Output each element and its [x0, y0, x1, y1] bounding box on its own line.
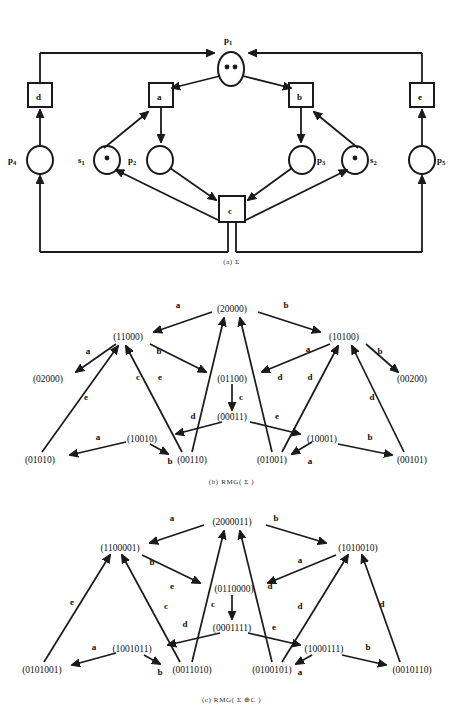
edge-label-ca2: a	[298, 555, 303, 565]
edge-20000-10100	[258, 312, 320, 332]
edge-10100-01100	[262, 344, 330, 372]
edge-1000111-0100101	[296, 655, 312, 664]
place-p2-label: p2	[128, 155, 136, 166]
transition-b-label: b	[297, 92, 302, 102]
caption-panel-b: (b) RMG( Σ )	[0, 478, 463, 486]
edge-0011010-2000011	[192, 531, 224, 662]
node-02000: (02000)	[33, 374, 63, 385]
edge-label-c1: c	[239, 392, 243, 402]
edge-label-b5: b	[367, 432, 372, 442]
node-01010: (01010)	[25, 455, 55, 466]
place-p5-label: p5	[437, 155, 446, 166]
node-00200: (00200)	[397, 374, 427, 385]
edge-0001111-1001011	[168, 633, 220, 645]
edge-label-e1: e	[275, 411, 279, 421]
edge-10010-01010	[70, 442, 126, 455]
edge-label-d2: d	[277, 372, 282, 382]
edge-1001011-0101001	[72, 653, 116, 665]
edge-01001-20000	[240, 318, 272, 452]
node-1100001: (1100001)	[100, 543, 139, 554]
place-s1: s1	[78, 146, 120, 174]
caption-panel-c: (c) RMG( Σ ⊕C )	[0, 696, 463, 704]
place-s2: s2	[342, 146, 377, 174]
edge-label-ce3: e	[170, 581, 174, 591]
node-2000011: (2000011)	[212, 517, 251, 528]
place-p3-label: p3	[317, 155, 326, 166]
edge-01010-11000	[42, 346, 118, 452]
rmg-sigma-svg: (20000) (11000) (10100) (02000) (01100) …	[0, 292, 463, 474]
node-00101: (00101)	[397, 455, 427, 466]
edge-2000011-1100001	[150, 525, 204, 543]
edge-label-a5: a	[308, 456, 313, 466]
place-p5: p5	[409, 146, 446, 174]
node-0110000: (0110000)	[214, 584, 253, 595]
edge-0101001-1100001	[44, 555, 110, 662]
rmg-sigma-c-svg: (2000011) (1100001) (1010010) (0110000) …	[0, 505, 463, 685]
node-1010010: (1010010)	[338, 543, 378, 554]
edge-0001111-1000111	[248, 633, 300, 645]
transition-c: c	[219, 196, 245, 222]
petri-net-svg: p1 a b c d e p2 p3 p4 p5 s1	[0, 24, 463, 254]
edge-label-ca1: a	[170, 513, 175, 523]
edge-label-b2: b	[156, 346, 161, 356]
transition-e-label: e	[418, 92, 422, 102]
edge-label-ca3: a	[92, 642, 97, 652]
edge-label-e3: e	[158, 372, 162, 382]
place-p1: p1	[218, 35, 244, 86]
edge-10001-00101	[338, 444, 392, 455]
edge-label-cd1: d	[182, 619, 187, 629]
edge-label-a1: a	[176, 300, 181, 310]
edge-10010-00110	[150, 444, 168, 454]
edge-label-cd3: d	[379, 599, 384, 609]
transition-d-label: d	[36, 92, 41, 102]
edge-label-cb1: b	[273, 513, 278, 523]
edge-2000011-1010010	[266, 525, 326, 543]
node-0101001: (0101001)	[22, 665, 62, 676]
edge-label-d4: d	[307, 372, 312, 382]
transition-c-label: c	[228, 206, 232, 216]
node-00011: (00011)	[217, 412, 247, 423]
edge-1001011-0011010	[144, 655, 160, 664]
transition-a-label: a	[157, 92, 162, 102]
edge-00110-20000	[192, 318, 224, 452]
edge-label-a2: a	[86, 346, 91, 356]
edge-0100101-2000011	[240, 531, 272, 662]
edge-label-b3: b	[377, 346, 382, 356]
edge-label-d3: d	[369, 392, 374, 402]
edge-label-a3: a	[306, 344, 311, 354]
transition-b: b	[289, 83, 313, 107]
edge-label-cb3: b	[157, 667, 162, 677]
place-p4-label: p4	[8, 155, 17, 166]
node-20000: (20000)	[217, 304, 247, 315]
edge-label-cb2: b	[149, 557, 154, 567]
place-p1-label: p1	[224, 35, 232, 46]
node-01001: (01001)	[257, 455, 287, 466]
edge-label-c2: c	[136, 372, 140, 382]
transition-a: a	[149, 83, 173, 107]
node-01100: (01100)	[217, 374, 247, 385]
edge-00101-10100	[352, 346, 404, 452]
edge-label-cd4: d	[297, 601, 302, 611]
edge-label-ce2: e	[70, 597, 74, 607]
edge-label-cc1: c	[211, 599, 215, 609]
node-11000: (11000)	[113, 332, 143, 343]
edge-label-ce1: e	[272, 622, 276, 632]
place-s1-label: s1	[78, 155, 85, 166]
petri-net-figure: p1 a b c d e p2 p3 p4 p5 s1	[0, 24, 463, 254]
node-0011010: (0011010)	[172, 665, 211, 676]
edge-label-a4: a	[96, 432, 101, 442]
transition-d: d	[28, 83, 52, 107]
edge-20000-11000	[154, 312, 212, 332]
rmg-sigma-figure: (20000) (11000) (10100) (02000) (01100) …	[0, 292, 463, 474]
node-0100101: (0100101)	[252, 665, 292, 676]
node-0001111: (0001111)	[213, 623, 252, 634]
place-p4: p4	[8, 146, 53, 174]
rmg-sigma-c-figure: (2000011) (1100001) (1010010) (0110000) …	[0, 505, 463, 685]
caption-panel-a: (a) Σ	[0, 258, 463, 266]
node-00110: (00110)	[177, 455, 207, 466]
place-p2: p2	[128, 146, 173, 174]
edge-label-b1: b	[283, 300, 288, 310]
node-10100: (10100)	[329, 332, 359, 343]
edge-label-ca4: a	[298, 667, 303, 677]
transition-e: e	[410, 83, 434, 107]
